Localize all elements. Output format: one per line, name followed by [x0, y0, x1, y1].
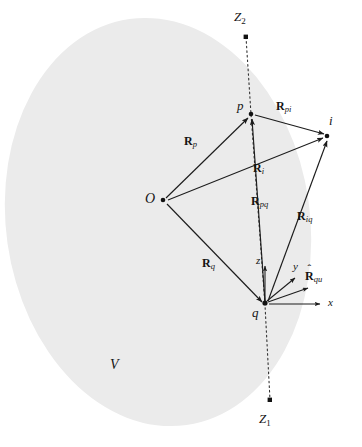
vector-label-R_pi: Rpi — [276, 100, 291, 114]
vector-label-R_pi-subscript: pi — [285, 104, 292, 114]
vector-label-R_iq-subscript: iq — [306, 214, 313, 224]
point-label-p: p — [237, 99, 244, 112]
point-label-q: q — [252, 306, 259, 319]
axis-label-x: x — [328, 297, 333, 308]
point-marker-p — [249, 112, 254, 117]
point-marker-q — [262, 300, 267, 305]
point-label-O: O — [145, 192, 155, 206]
vector-label-R_p-subscript: p — [193, 139, 197, 149]
point-label-Z2-subscript: 2 — [241, 16, 246, 26]
region-label-V: V — [110, 358, 119, 372]
vector-label-R_q-base: R — [202, 256, 211, 270]
vector-geometry-diagram: Z2 Z1 p i O q V Rp Rpi Ri Rpq Riq Rq ˆRq… — [0, 0, 362, 447]
vector-label-R_pq-base: R — [251, 194, 260, 208]
vector-label-R_i-subscript: i — [262, 166, 264, 176]
vector-label-R_pq-subscript: pq — [260, 199, 269, 209]
vector-label-R_iq-base: R — [297, 209, 306, 223]
point-marker-Z2 — [244, 35, 248, 39]
point-label-i: i — [329, 114, 333, 127]
vector-label-R_i-base: R — [253, 161, 262, 175]
region-ellipse — [0, 0, 337, 446]
vector-label-R_p-base: R — [184, 134, 193, 148]
axis-label-z: z — [256, 255, 260, 266]
vector-label-R_pi-base: R — [276, 99, 285, 113]
point-label-Z2: Z2 — [234, 10, 246, 26]
point-marker-i — [325, 134, 330, 139]
vector-label-R_q: Rq — [202, 257, 215, 271]
axis-label-y: y — [293, 261, 298, 272]
vector-label-R_i: Ri — [253, 162, 264, 176]
vector-label-R_p: Rp — [184, 135, 197, 149]
vector-label-R_hat_qu-subscript: qu — [314, 274, 323, 284]
vector-label-R_pq: Rpq — [251, 195, 268, 209]
vector-label-R_hat_qu: ˆRqu — [305, 270, 322, 284]
hat-accent-icon: ˆ — [307, 263, 311, 274]
point-marker-Z1 — [268, 398, 272, 402]
point-marker-O — [161, 198, 166, 203]
point-label-Z1: Z1 — [259, 412, 271, 428]
vector-label-R_iq: Riq — [297, 210, 312, 224]
vector-label-R_q-subscript: q — [211, 261, 215, 271]
point-label-Z1-subscript: 1 — [266, 418, 271, 428]
r-hat-glyph: ˆR — [305, 270, 314, 282]
